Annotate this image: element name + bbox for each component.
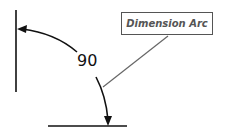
dimension-arc-lower xyxy=(96,77,108,120)
angle-value: 90 xyxy=(77,52,97,70)
arrowhead-down-icon xyxy=(104,116,112,126)
leader-line xyxy=(103,36,168,87)
callout-box: Dimension Arc xyxy=(121,12,213,35)
dimension-arc-upper xyxy=(22,29,77,52)
arrowhead-left-icon xyxy=(17,25,27,33)
callout-label: Dimension Arc xyxy=(126,18,208,29)
